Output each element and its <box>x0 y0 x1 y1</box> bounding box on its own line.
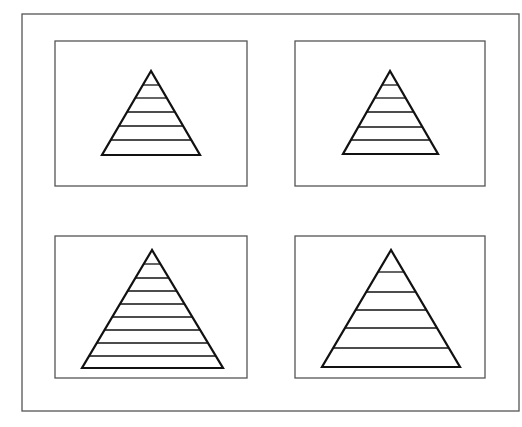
panel-top-right <box>295 41 485 186</box>
pyramid-triangle <box>102 71 200 155</box>
outer-frame <box>22 14 519 411</box>
panel-bottom-right <box>295 236 485 378</box>
panel-top-left <box>55 41 247 186</box>
panel-frame <box>55 236 247 378</box>
panels-layer <box>55 41 485 378</box>
panel-bottom-left <box>55 236 247 378</box>
pyramid-triangle <box>82 250 223 368</box>
panel-frame <box>295 236 485 378</box>
panel-frame <box>55 41 247 186</box>
panel-frame <box>295 41 485 186</box>
pyramid-diagram-figure <box>0 0 522 427</box>
pyramid-triangle <box>322 250 460 367</box>
